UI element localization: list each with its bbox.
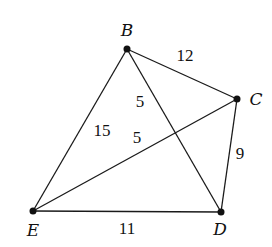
node-d <box>218 209 225 216</box>
weight-e-d: 11 <box>119 219 135 238</box>
node-label-e: E <box>26 220 40 240</box>
edge-e-d <box>33 211 221 212</box>
weight-b-d: 5 <box>136 92 145 111</box>
edge-e-c <box>33 99 237 211</box>
node-label-d: D <box>212 219 227 239</box>
weight-b-c: 12 <box>177 46 194 65</box>
node-labels: B C D E <box>26 20 263 240</box>
weight-c-d: 9 <box>236 144 245 163</box>
weight-e-c: 5 <box>133 128 142 147</box>
edge-c-d <box>221 99 237 212</box>
node-label-c: C <box>249 89 262 109</box>
node-b <box>124 46 131 53</box>
weighted-graph: B C D E 12 5 15 5 9 11 <box>0 0 272 247</box>
weight-b-e: 15 <box>94 121 111 140</box>
node-e <box>30 208 37 215</box>
edge-b-e <box>33 49 127 211</box>
node-label-b: B <box>120 20 134 40</box>
node-c <box>234 96 241 103</box>
